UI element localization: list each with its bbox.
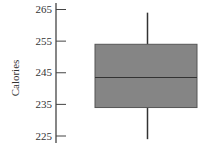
iqr-box [95,44,197,107]
y-tick-label: 255 [36,35,53,47]
box-plot-chart: 225235245255265 Calories [0,0,206,165]
y-tick-label: 245 [36,66,53,78]
y-axis: 225235245255265 [36,3,67,143]
y-axis-label: Calories [9,60,21,97]
y-tick-label: 265 [36,3,53,15]
y-tick-label: 235 [36,98,53,110]
y-tick-label: 225 [36,130,53,142]
box-group [95,13,197,140]
